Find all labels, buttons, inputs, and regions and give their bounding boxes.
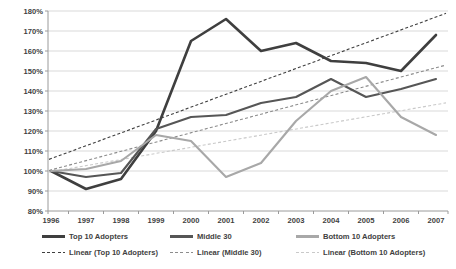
legend-label: Linear (Middle 30) xyxy=(197,248,262,257)
chart-plot-area: 80%90%100%110%120%130%140%150%160%170%18… xyxy=(0,0,456,228)
x-axis-label: 2001 xyxy=(218,216,236,225)
y-axis-label: 110% xyxy=(24,147,43,156)
y-axis-label: 100% xyxy=(24,167,44,176)
x-axis-label: 1998 xyxy=(113,216,130,225)
trendline xyxy=(49,65,446,170)
x-axis-label: 2006 xyxy=(393,216,410,225)
y-axis-label: 170% xyxy=(24,27,44,36)
x-axis-label: 2003 xyxy=(288,216,305,225)
linear-bottom10-dash-swatch-icon xyxy=(296,252,319,254)
x-axis-label: 1997 xyxy=(78,216,95,225)
middle30-line-swatch-icon xyxy=(170,235,193,237)
x-axis-label: 2004 xyxy=(323,216,341,225)
top10-line-swatch-icon xyxy=(42,235,65,238)
y-axis-label: 120% xyxy=(24,127,44,136)
x-axis-label: 1999 xyxy=(148,216,165,225)
y-axis-label: 180% xyxy=(24,7,44,16)
legend-item-bottom10: Bottom 10 Adopters xyxy=(296,230,395,243)
linear-middle30-dash-swatch-icon xyxy=(170,252,193,254)
legend-item-linear-top10: Linear (Top 10 Adopters) xyxy=(42,246,158,259)
legend-item-top10: Top 10 Adopters xyxy=(42,230,128,243)
line-chart-figure: 80%90%100%110%120%130%140%150%160%170%18… xyxy=(0,0,456,269)
x-axis-label: 2002 xyxy=(253,216,270,225)
y-axis-label: 140% xyxy=(24,87,44,96)
trendline xyxy=(49,13,446,159)
legend-label: Bottom 10 Adopters xyxy=(323,232,395,241)
legend-item-middle30: Middle 30 xyxy=(170,230,232,243)
x-axis-label: 1996 xyxy=(43,216,60,225)
chart-legend-row-trendlines: Linear (Top 10 Adopters) Linear (Middle … xyxy=(0,246,456,259)
chart-legend-row-series: Top 10 Adopters Middle 30 Bottom 10 Adop… xyxy=(0,230,456,243)
y-axis-label: 130% xyxy=(24,107,44,116)
legend-label: Linear (Bottom 10 Adopters) xyxy=(323,248,425,257)
series-line xyxy=(51,79,436,177)
y-axis-label: 160% xyxy=(24,47,44,56)
y-axis-label: 90% xyxy=(28,187,43,196)
legend-label: Linear (Top 10 Adopters) xyxy=(69,248,158,257)
legend-label: Middle 30 xyxy=(197,232,232,241)
y-axis-label: 150% xyxy=(24,67,44,76)
x-axis-label: 2007 xyxy=(428,216,445,225)
x-axis-label: 2000 xyxy=(183,216,200,225)
bottom10-line-swatch-icon xyxy=(296,235,319,237)
linear-top10-dash-swatch-icon xyxy=(42,252,65,254)
legend-item-linear-bottom10: Linear (Bottom 10 Adopters) xyxy=(296,246,425,259)
series-line xyxy=(51,77,436,177)
y-axis-label: 80% xyxy=(28,207,43,216)
legend-label: Top 10 Adopters xyxy=(69,232,128,241)
x-axis-label: 2005 xyxy=(358,216,376,225)
legend-item-linear-middle30: Linear (Middle 30) xyxy=(170,246,262,259)
